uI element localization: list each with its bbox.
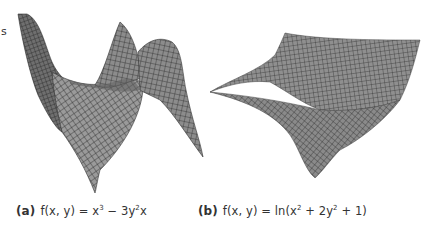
caption-a-label: (a) xyxy=(16,204,35,218)
formula-a-part2: − 3y xyxy=(104,204,136,218)
figure-canvas xyxy=(0,0,427,237)
formula-b-part3: + 1) xyxy=(338,204,367,218)
caption-b-label: (b) xyxy=(198,204,218,218)
caption-a-formula: f(x, y) = x3 − 3y2x xyxy=(40,204,146,218)
formula-a-part3: x xyxy=(140,204,147,218)
formula-a-part1: f(x, y) = x xyxy=(40,204,99,218)
surface-plot-b xyxy=(210,33,420,178)
surface-plot-a xyxy=(18,14,203,193)
caption-b-formula: f(x, y) = ln(x2 + 2y2 + 1) xyxy=(223,204,367,218)
formula-b-part2: + 2y xyxy=(302,204,334,218)
caption-a: (a)f(x, y) = x3 − 3y2x xyxy=(16,204,147,218)
caption-b: (b)f(x, y) = ln(x2 + 2y2 + 1) xyxy=(198,204,367,218)
formula-b-part1: f(x, y) = ln(x xyxy=(223,204,297,218)
